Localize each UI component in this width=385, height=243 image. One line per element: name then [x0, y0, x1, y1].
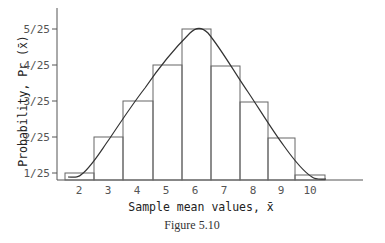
x-tick-labels: 2 3 4 5 6 7 8 9 10: [76, 184, 317, 197]
bar-6: [182, 29, 211, 180]
histogram-bars: [65, 29, 325, 180]
bar-9: [268, 138, 295, 180]
figure-caption: Figure 5.10: [164, 218, 219, 232]
svg-text:2: 2: [76, 184, 83, 197]
fitted-curve: [68, 29, 326, 180]
svg-text:5/25: 5/25: [24, 23, 51, 36]
histogram-chart: 1/25 2/25 3/25 4/25 5/25 2 3 4 5 6 7 8 9…: [0, 0, 385, 243]
svg-text:6: 6: [192, 184, 199, 197]
svg-text:5: 5: [163, 184, 170, 197]
svg-text:1/25: 1/25: [24, 167, 51, 180]
svg-text:8: 8: [250, 184, 257, 197]
svg-text:9: 9: [278, 184, 285, 197]
bar-7: [211, 66, 240, 180]
x-axis-label: Sample mean values, x̄: [128, 200, 273, 214]
y-ticks: [52, 29, 57, 173]
svg-text:10: 10: [303, 184, 316, 197]
bar-5: [153, 65, 182, 180]
bar-8: [240, 102, 268, 180]
svg-text:4: 4: [134, 184, 141, 197]
bar-3: [94, 137, 123, 180]
svg-text:7: 7: [221, 184, 228, 197]
y-axis-label: Probability, Pr (x̄): [16, 35, 30, 167]
svg-text:3: 3: [105, 184, 112, 197]
